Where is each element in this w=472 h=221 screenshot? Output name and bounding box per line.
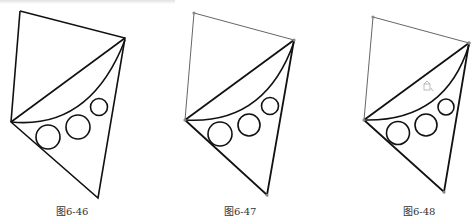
vertex-handle	[192, 11, 195, 14]
vertex-handle	[292, 38, 295, 41]
caption-6-46: 图6-46	[56, 203, 88, 218]
figure-6-48	[320, 0, 472, 221]
fill-bucket-cursor-icon	[424, 81, 433, 91]
vertex-handle	[265, 193, 268, 196]
caption-6-47: 图6-47	[224, 203, 256, 218]
vertex-handle	[183, 118, 186, 121]
caption-6-48: 图6-48	[403, 203, 435, 218]
figure-6-46	[0, 0, 160, 221]
figure-6-47	[160, 0, 320, 221]
diagram-stage: 图6-46 图6-47	[0, 0, 472, 221]
